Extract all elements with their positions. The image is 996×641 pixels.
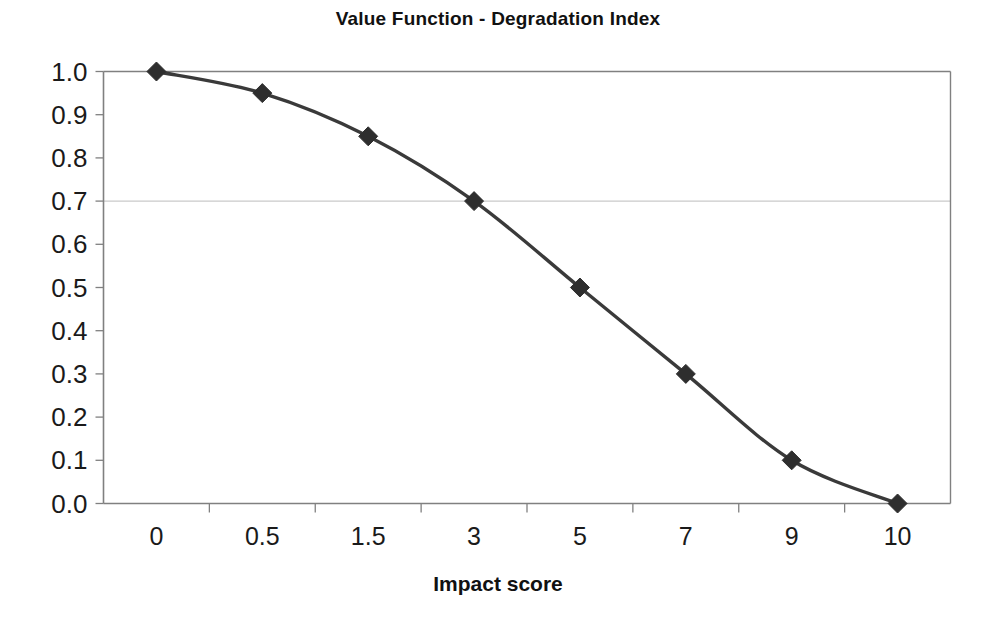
plot-area: 1.00.90.80.70.60.50.40.30.20.10.000.51.5…: [0, 0, 996, 641]
tick-labels-group: 1.00.90.80.70.60.50.40.30.20.10.000.51.5…: [51, 57, 911, 550]
y-tick-label: 0.0: [51, 489, 87, 519]
x-tick-label: 0.5: [245, 522, 280, 550]
data-point-marker: [888, 494, 907, 513]
x-tick-label: 5: [573, 522, 587, 550]
data-series-group: [147, 62, 907, 513]
x-axis-title: Impact score: [0, 572, 996, 596]
chart-container: Value Function - Degradation Index 1.00.…: [0, 0, 996, 641]
data-line: [156, 72, 897, 504]
y-tick-label: 0.7: [51, 186, 87, 216]
data-point-marker: [359, 127, 378, 146]
tick-marks-group: [96, 72, 845, 513]
y-tick-label: 0.2: [51, 402, 87, 432]
y-tick-label: 1.0: [51, 57, 87, 87]
x-tick-label: 10: [884, 522, 912, 550]
y-tick-label: 0.4: [51, 316, 87, 346]
x-tick-label: 1.5: [351, 522, 386, 550]
x-tick-label: 0: [149, 522, 163, 550]
y-tick-label: 0.1: [51, 445, 87, 475]
x-tick-label: 9: [785, 522, 799, 550]
x-tick-label: 7: [679, 522, 693, 550]
y-tick-label: 0.9: [51, 100, 87, 130]
y-tick-label: 0.6: [51, 229, 87, 259]
axes-group: [104, 72, 951, 504]
y-tick-label: 0.8: [51, 143, 87, 173]
data-point-marker: [253, 84, 272, 103]
data-point-marker: [147, 62, 166, 81]
y-tick-label: 0.5: [51, 273, 87, 303]
x-tick-label: 3: [467, 522, 481, 550]
y-tick-label: 0.3: [51, 359, 87, 389]
data-point-marker: [782, 451, 801, 470]
